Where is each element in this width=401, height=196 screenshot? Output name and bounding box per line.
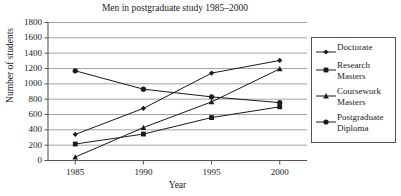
data-series [73, 58, 283, 137]
y-tick-label: 0 [2, 156, 42, 165]
data-series [73, 68, 283, 105]
legend-item-label: Doctorate [337, 42, 372, 53]
data-point-marker [209, 115, 214, 120]
gridlines [48, 23, 307, 161]
x-tick-label: 1990 [121, 168, 165, 177]
chart-legend: DoctorateResearch MastersCoursework Mast… [311, 37, 396, 143]
y-tick-label: 400 [2, 125, 42, 134]
series-line [75, 60, 279, 134]
legend-item-label: Postgraduate Diploma [337, 112, 384, 133]
data-point-marker [72, 154, 78, 159]
x-tick-label: 2000 [258, 168, 302, 177]
series-line [75, 71, 279, 103]
y-tick-label: 800 [2, 95, 42, 104]
series-line [75, 107, 279, 144]
triangle-marker-icon [315, 87, 337, 97]
data-point-marker [141, 87, 146, 92]
legend-item[interactable]: Doctorate [315, 42, 395, 53]
legend-item-label: Research Masters [337, 60, 370, 81]
y-tick-label: 600 [2, 110, 42, 119]
data-point-marker [141, 106, 146, 111]
data-point-marker [277, 100, 282, 105]
legend-item[interactable]: Research Masters [315, 60, 395, 81]
circle-marker-icon [315, 113, 337, 123]
data-point-marker [73, 132, 78, 137]
data-point-marker [141, 132, 146, 137]
data-series-layer [72, 58, 282, 160]
y-tick-label: 1600 [2, 33, 42, 42]
y-tick-label: 1200 [2, 64, 42, 73]
axis-lines [48, 23, 307, 161]
y-tick-label: 200 [2, 141, 42, 150]
data-point-marker [209, 71, 214, 76]
series-line [75, 69, 279, 157]
data-series [73, 104, 282, 146]
data-point-marker [209, 94, 214, 99]
chart-figure: Men in postgraduate study 1985–2000 Numb… [0, 0, 401, 196]
legend-item[interactable]: Coursework Masters [315, 86, 395, 107]
x-tick-label: 1985 [53, 168, 97, 177]
y-tick-label: 1000 [2, 79, 42, 88]
legend-item-label: Coursework Masters [337, 86, 381, 107]
y-tick-label: 1400 [2, 49, 42, 58]
x-tick-label: 1995 [190, 168, 234, 177]
square-marker-icon [315, 61, 337, 71]
data-point-marker [73, 142, 78, 147]
data-point-marker [73, 68, 78, 73]
data-point-marker [209, 99, 215, 104]
legend-item[interactable]: Postgraduate Diploma [315, 112, 395, 133]
diamond-marker-icon [315, 43, 337, 53]
data-point-marker [277, 58, 282, 63]
y-tick-label: 1800 [2, 18, 42, 27]
